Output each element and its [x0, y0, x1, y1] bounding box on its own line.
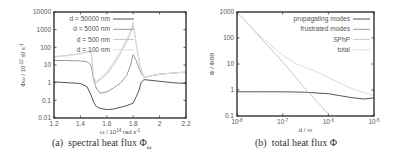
x-tick-label: 10-5	[368, 118, 380, 126]
series-line-propagating-modes	[237, 92, 374, 99]
y-tick-label: 10000	[33, 8, 51, 15]
legend-label: d = 100 nm	[77, 46, 111, 53]
y-axis-label: Φω / 10-12 W s-1	[19, 43, 27, 87]
x-axis-label: ω / 1014 rad s-1	[100, 128, 141, 136]
y-tick-label: 0.1	[42, 97, 51, 104]
caption-a-label: (a)	[52, 137, 63, 148]
x-tick-label: 10-6	[323, 118, 335, 126]
y-tick-label: 100	[223, 34, 234, 41]
y-tick-label: 10	[44, 61, 52, 68]
x-tick-label: 2.2	[181, 120, 190, 127]
y-axis-label: Φ / ΦBB	[209, 53, 215, 76]
caption-a-text: spectral heat flux Φ	[68, 137, 147, 148]
plot-area: 10-810-710-610-50.11101001000d / mΦ / ΦB…	[209, 8, 380, 133]
x-tick-label: 2	[158, 120, 162, 127]
y-tick-label: 100	[40, 44, 51, 51]
caption-b-text: total heat flux Φ	[272, 137, 337, 148]
y-tick-label: 0.01	[38, 114, 51, 121]
x-tick-label: 1.4	[76, 120, 85, 127]
legend: propagating modesfrustrated modesSPhPtot…	[294, 15, 370, 53]
caption-a: (a) spectral heat flux Φω	[52, 137, 151, 151]
plot-area: 1.21.41.61.822.20.010.1110100100010000ω …	[19, 8, 191, 135]
y-tick-label: 0.1	[225, 112, 234, 119]
legend-label: total	[338, 46, 351, 53]
legend-label: d = 5000 nm	[73, 25, 110, 32]
y-tick-label: 1	[230, 86, 234, 93]
legend-label: frustrated modes	[301, 25, 351, 32]
x-tick-label: 1.8	[129, 120, 138, 127]
caption-a-sub: ω	[147, 143, 152, 151]
x-axis-label: d / m	[299, 127, 312, 133]
y-tick-label: 1000	[37, 26, 52, 33]
y-tick-label: 1	[47, 79, 51, 86]
caption-b-label: (b)	[255, 137, 267, 148]
caption-b: (b) total heat flux Φ	[255, 137, 337, 148]
legend-label: SPhP	[333, 36, 350, 43]
figure-a-spectral-heat-flux: 1.21.41.61.822.20.010.1110100100010000ω …	[0, 0, 196, 163]
x-tick-label: 10-7	[277, 118, 289, 126]
y-tick-label: 1000	[220, 8, 235, 15]
x-tick-label: 1.6	[102, 120, 111, 127]
figure-b-total-heat-flux: 10-810-710-610-50.11101001000d / mΦ / ΦB…	[196, 0, 393, 163]
legend-label: propagating modes	[294, 15, 351, 23]
legend-label: d = 500 nm	[77, 36, 111, 43]
legend-label: d = 50000 nm	[69, 15, 110, 22]
y-tick-label: 10	[227, 60, 235, 67]
